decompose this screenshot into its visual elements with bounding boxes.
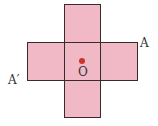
square-right: [100, 42, 138, 81]
label-a: A: [140, 37, 149, 49]
square-top: [64, 4, 101, 43]
label-o: O: [78, 66, 88, 78]
square-left: [27, 42, 65, 81]
center-point: [79, 58, 85, 64]
square-bottom: [64, 80, 101, 118]
label-a-prime: A′: [8, 74, 19, 86]
